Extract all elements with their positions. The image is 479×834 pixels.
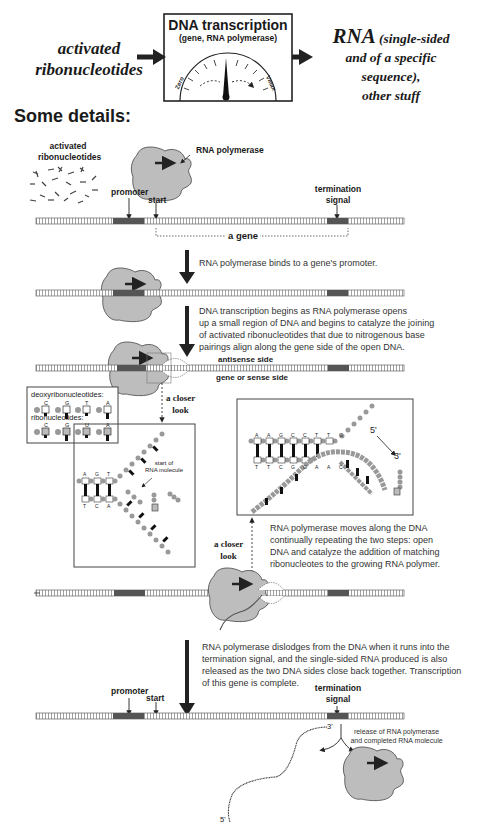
base-letter: C xyxy=(44,400,48,406)
loose-ribonucleotides xyxy=(30,167,98,203)
release-annotation: release of RNA polymerase and completed … xyxy=(349,727,444,745)
base-letter: C xyxy=(339,464,343,470)
promoter-label: promoter xyxy=(111,187,148,197)
base-letter: G xyxy=(65,400,69,406)
sense-label: gene or sense side xyxy=(216,373,288,382)
release-line2: and completed RNA molecule xyxy=(349,736,444,745)
final-termination-line1: termination xyxy=(310,683,366,694)
base-letter: A xyxy=(106,400,110,406)
output-rna: RNA xyxy=(332,24,375,48)
start-label: start xyxy=(148,195,166,205)
rna-start-line2: RNA molecule xyxy=(145,467,183,474)
base-letter: C xyxy=(44,422,48,428)
base-letter: T xyxy=(83,503,86,509)
base-letter: G xyxy=(65,422,69,428)
base-letter: T xyxy=(255,464,258,470)
closer-look-1-label: a closer look xyxy=(166,392,195,416)
dna-strand-1 xyxy=(36,218,404,224)
closer-look-1-line2: look xyxy=(166,404,195,416)
antisense-label: antisense side xyxy=(218,355,273,364)
base-letter: A xyxy=(107,503,110,509)
header-input-label-line2: ribonucleotides xyxy=(34,59,144,80)
step2-line: up a small region of DNA and begins to c… xyxy=(199,317,439,329)
output-line2: and of a specific xyxy=(316,48,466,67)
base-letter: T xyxy=(85,400,88,406)
nucleotides-label-line1: activated xyxy=(38,141,98,152)
step3-line: continually repeating the two steps: ope… xyxy=(270,534,440,546)
termination-label-line1: termination xyxy=(310,184,366,195)
base-letter: A xyxy=(83,471,86,477)
base-letter: C xyxy=(303,432,307,438)
final-start-label: start xyxy=(146,693,164,703)
process-box-text: DNA transcription (gene, RNA polymerase) xyxy=(164,17,292,43)
base-letter: G xyxy=(303,464,307,470)
final-termination-line2: signal xyxy=(310,694,366,705)
legend-ribo-title: ribonucleotides: xyxy=(31,413,84,422)
rna-start-line1: start of xyxy=(145,460,183,467)
termination-label: termination signal xyxy=(310,184,366,206)
base-letter: T xyxy=(267,464,270,470)
section-title: Some details: xyxy=(14,106,131,127)
step2-line: DNA transcription begins as RNA polymera… xyxy=(199,305,439,317)
dna-strand-5 xyxy=(36,713,404,719)
step1-text: RNA polymerase binds to a gene's promote… xyxy=(199,257,377,270)
step4-text: RNA polymerase dislodges from the DNA wh… xyxy=(202,641,461,689)
final-termination-label: termination signal xyxy=(310,683,366,705)
rna-3prime-label: 3' xyxy=(327,722,333,731)
step4-line: termination signal, and the single-sided… xyxy=(202,653,461,665)
nucleotides-label: activated ribonucleotides xyxy=(38,141,98,163)
process-subtitle: (gene, RNA polymerase) xyxy=(164,33,292,43)
termination-label-line2: signal xyxy=(310,195,366,206)
base-letter: A xyxy=(255,432,258,438)
base-letter: A xyxy=(327,464,330,470)
process-title: DNA transcription xyxy=(164,17,292,33)
base-letter: U xyxy=(85,422,89,428)
base-letter: G xyxy=(339,432,343,438)
step4-line: RNA polymerase dislodges from the DNA wh… xyxy=(202,641,461,653)
final-promoter-label: promoter xyxy=(111,686,148,696)
rna-start-annotation: start of RNA molecule xyxy=(145,460,183,474)
gene-label: a gene xyxy=(226,230,260,241)
step3-text: RNA polymerase moves along the DNA conti… xyxy=(270,522,440,570)
base-letter: G xyxy=(95,471,99,477)
release-line1: release of RNA polymerase xyxy=(349,727,444,736)
nucleotides-label-line2: ribonucleotides xyxy=(38,152,98,163)
base-letter: C xyxy=(291,432,295,438)
base-letter: C xyxy=(95,503,99,509)
output-line3: sequence), xyxy=(316,67,466,86)
base-letter: C xyxy=(279,464,283,470)
closer-look-2-line1: a closer xyxy=(214,538,243,550)
base-letter: A xyxy=(315,464,318,470)
base-letter: G xyxy=(291,464,295,470)
closer-look-1-detail xyxy=(77,432,181,555)
base-letter: T xyxy=(107,471,110,477)
base-letter: T xyxy=(315,432,318,438)
rna-5prime-label: 5' xyxy=(220,815,226,824)
step4-line: released as the two DNA sides close back… xyxy=(202,665,461,677)
header-input-label: activated ribonucleotides xyxy=(34,38,144,80)
closer-look-2-label: a closer look xyxy=(214,538,243,562)
closer-look-1-line1: a closer xyxy=(166,392,195,404)
step3-line: RNA polymerase moves along the DNA xyxy=(270,522,440,534)
five-prime-label: 5' xyxy=(370,425,377,435)
step3-line: ribonucleotes to the growing RNA polymer… xyxy=(270,558,440,570)
closer-look-2-detail xyxy=(249,404,403,513)
base-letter: T xyxy=(327,432,330,438)
output-line4: other stuff xyxy=(316,86,466,105)
step2-line: of activated ribonucleotides that due to… xyxy=(199,329,439,341)
header-output-label: RNA (single-sided and of a specific sequ… xyxy=(316,27,466,105)
step2-line: pairings align along the gene side of th… xyxy=(199,341,439,353)
three-prime-label: 3' xyxy=(394,451,401,461)
legend-deoxy-title: deoxyribonucleotides: xyxy=(31,390,104,399)
base-letter: G xyxy=(279,432,283,438)
header-input-label-line1: activated xyxy=(34,38,144,59)
output-line1: (single-sided xyxy=(379,31,450,46)
base-letter: A xyxy=(267,432,270,438)
closer-look-2-line2: look xyxy=(214,550,243,562)
polymerase-label: RNA polymerase xyxy=(196,145,264,155)
dna-strand-2 xyxy=(36,290,404,296)
step2-text: DNA transcription begins as RNA polymera… xyxy=(199,305,439,353)
base-letter: A xyxy=(106,422,110,428)
step3-line: DNA and catalyze the addition of matchin… xyxy=(270,546,440,558)
